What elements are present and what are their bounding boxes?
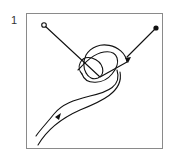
exit-line — [127, 29, 155, 57]
tail-lower — [38, 72, 120, 145]
trajectory-diagram — [0, 0, 170, 154]
end-point-icon — [153, 25, 158, 30]
arrowhead-icon — [55, 113, 61, 120]
start-point-icon — [42, 23, 47, 28]
